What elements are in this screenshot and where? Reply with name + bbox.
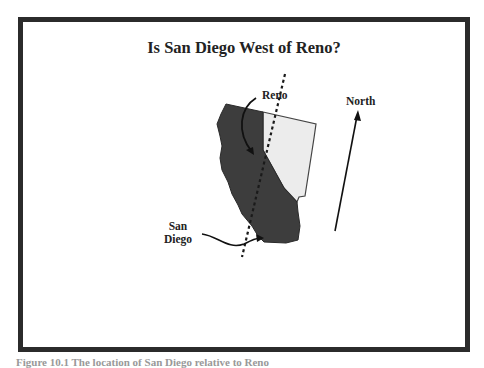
san-diego-arrow xyxy=(202,234,262,245)
north-arrowhead xyxy=(354,110,361,121)
figure-caption: Figure 10.1 The location of San Diego re… xyxy=(16,356,269,368)
san-diego-label-line1: San xyxy=(160,220,196,233)
north-label: North xyxy=(346,95,375,108)
north-arrow xyxy=(335,116,357,231)
san-diego-label-line2: Diego xyxy=(160,233,196,246)
san-diego-label: San Diego xyxy=(160,220,196,246)
reno-label: Reno xyxy=(262,89,288,102)
